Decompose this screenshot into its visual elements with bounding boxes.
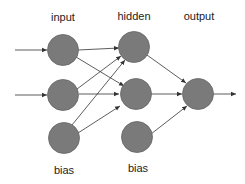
hidden-bias-node: [122, 122, 153, 153]
output-node: [183, 79, 214, 110]
hidden-node-2: [121, 79, 152, 110]
input-node-2: [48, 80, 79, 111]
layer-label-input: input: [51, 11, 75, 23]
hidden-node-1: [119, 32, 150, 63]
neural-network-diagram: input hidden output bias bias: [0, 0, 245, 184]
layer-label-output: output: [184, 10, 215, 22]
edge-h1-o: [147, 55, 186, 83]
edge-b2-o: [151, 106, 187, 134]
edge-i1-h1: [78, 48, 119, 50]
edge-b1-h1: [72, 60, 125, 125]
bias-label-hidden: bias: [128, 162, 149, 174]
input-node-1: [48, 35, 79, 66]
input-bias-node: [49, 123, 80, 154]
layer-label-hidden: hidden: [117, 10, 150, 22]
bias-label-input: bias: [54, 164, 75, 176]
